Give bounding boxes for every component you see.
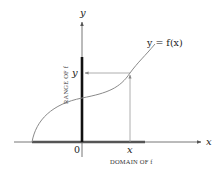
x-axis-label: x — [206, 136, 212, 147]
function-curve — [32, 44, 155, 142]
origin-label: 0 — [74, 144, 80, 155]
domain-range-diagram: y x y = f(x) y x 0 DOMAIN OF f RANGE OF … — [0, 0, 218, 171]
x-value-label: x — [127, 144, 133, 155]
function-label: y = f(x) — [146, 37, 183, 48]
domain-label: DOMAIN OF f — [110, 158, 153, 165]
range-label: RANGE OF f — [62, 65, 69, 104]
y-value-label: y — [71, 67, 78, 78]
y-axis-label: y — [79, 7, 86, 18]
